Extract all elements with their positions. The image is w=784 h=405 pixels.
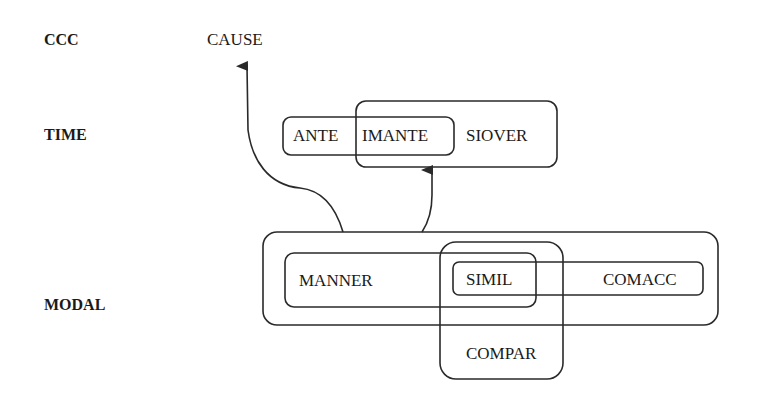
node-comacc: COMACC — [603, 271, 677, 288]
arrow-to-cause — [247, 66, 343, 232]
node-cause: CAUSE — [207, 31, 263, 48]
row-label-time: TIME — [44, 127, 87, 143]
arrow-to-imante-siover — [422, 170, 432, 232]
node-siover: SIOVER — [466, 127, 527, 144]
node-imante: IMANTE — [362, 127, 428, 144]
diagram-canvas — [0, 0, 784, 405]
node-compar: COMPAR — [466, 345, 536, 362]
node-simil: SIMIL — [466, 271, 512, 288]
node-manner: MANNER — [299, 272, 373, 289]
node-ante: ANTE — [293, 127, 338, 144]
row-label-modal: MODAL — [44, 297, 105, 313]
row-label-ccc: CCC — [44, 32, 79, 48]
